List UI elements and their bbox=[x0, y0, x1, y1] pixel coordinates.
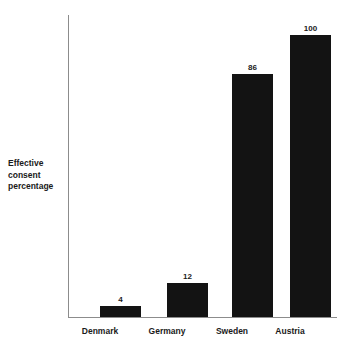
bar-value-label-germany: 12 bbox=[167, 272, 208, 281]
x-axis-line bbox=[68, 317, 337, 318]
bar-sweden: 86 bbox=[232, 15, 273, 317]
bar-chart-figure: Effective consent percentage 41286100 De… bbox=[0, 0, 347, 356]
bar-rect-germany bbox=[167, 283, 208, 317]
bar-rect-austria bbox=[290, 35, 331, 317]
y-axis-title-line-2: consent bbox=[8, 170, 66, 182]
bar-value-label-sweden: 86 bbox=[232, 63, 273, 72]
bar-germany: 12 bbox=[167, 15, 208, 317]
y-axis-title-line-1: Effective bbox=[8, 158, 66, 170]
category-label-denmark: Denmark bbox=[65, 326, 135, 336]
category-label-austria: Austria bbox=[255, 326, 325, 336]
y-axis-title: Effective consent percentage bbox=[8, 158, 66, 193]
bar-series: 41286100 bbox=[68, 15, 337, 317]
y-axis-title-line-3: percentage bbox=[8, 181, 66, 193]
bar-value-label-denmark: 4 bbox=[100, 295, 141, 304]
bar-austria: 100 bbox=[290, 15, 331, 317]
bar-denmark: 4 bbox=[100, 15, 141, 317]
bar-value-label-austria: 100 bbox=[290, 24, 331, 33]
x-axis-category-labels: DenmarkGermanySwedenAustria bbox=[68, 326, 337, 342]
bar-rect-sweden bbox=[232, 74, 273, 317]
category-label-germany: Germany bbox=[132, 326, 202, 336]
plot-area: 41286100 bbox=[68, 15, 337, 318]
bar-rect-denmark bbox=[100, 306, 141, 317]
